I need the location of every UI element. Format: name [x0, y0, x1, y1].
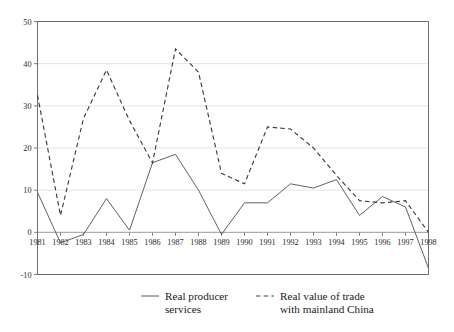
- x-tick-label: 1988: [190, 238, 206, 247]
- y-tick-label: 20: [23, 144, 31, 153]
- y-tick-label: 30: [23, 102, 31, 111]
- legend-label-dashed-line2: with mainland China: [280, 303, 374, 315]
- chart-figure: 50403020100-10 1981198219831984198519861…: [0, 0, 454, 332]
- y-axis-ticks: [34, 22, 38, 275]
- x-axis-ticks: [38, 232, 429, 236]
- legend-label-dashed-line1: Real value of trade: [280, 290, 365, 302]
- y-tick-label: -10: [21, 271, 32, 280]
- y-tick-label: 0: [27, 228, 31, 237]
- x-tick-label: 1995: [351, 238, 367, 247]
- series-line-real-value-of-trade: [38, 49, 429, 232]
- x-tick-label: 1981: [29, 238, 45, 247]
- legend-label-solid-line2: services: [165, 303, 201, 315]
- y-tick-label: 10: [23, 186, 31, 195]
- x-tick-label: 1987: [167, 238, 183, 247]
- x-tick-label: 1989: [213, 238, 229, 247]
- y-tick-label: 50: [23, 18, 31, 27]
- x-tick-label: 1985: [121, 238, 137, 247]
- x-tick-label: 1994: [328, 238, 344, 247]
- legend: Real producer services Real value of tra…: [141, 290, 374, 315]
- x-tick-label: 1993: [305, 238, 321, 247]
- x-tick-label: 1992: [282, 238, 298, 247]
- chart-svg: 50403020100-10 1981198219831984198519861…: [0, 0, 454, 332]
- grid-lines: [38, 22, 429, 275]
- x-tick-label: 1990: [236, 238, 252, 247]
- x-tick-label: 1983: [75, 238, 91, 247]
- x-tick-label: 1998: [420, 238, 436, 247]
- series-line-real-producer-services: [38, 154, 429, 268]
- x-tick-label: 1986: [144, 238, 160, 247]
- x-tick-label: 1991: [259, 238, 275, 247]
- x-tick-label: 1996: [374, 238, 390, 247]
- x-axis-labels: 1981198219831984198519861987198819891990…: [29, 238, 436, 247]
- y-tick-label: 40: [23, 60, 31, 69]
- legend-label-solid-line1: Real producer: [165, 290, 228, 302]
- x-tick-label: 1997: [397, 238, 413, 247]
- x-tick-label: 1984: [98, 238, 114, 247]
